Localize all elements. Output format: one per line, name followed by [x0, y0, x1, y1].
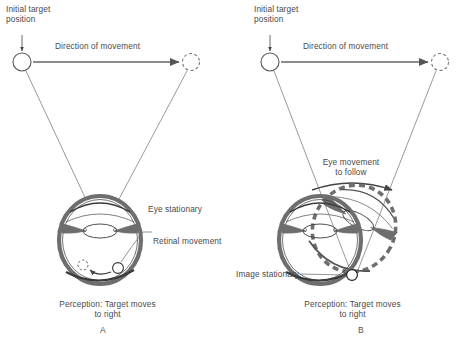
eye-inner-wall-a	[63, 200, 138, 281]
panel-letter-b: B	[358, 325, 364, 335]
ciliary-body-left-b	[280, 223, 306, 233]
panel-a-graphics	[13, 35, 200, 284]
image-stationary-label-b: Image stationary	[228, 269, 299, 279]
initial-target-circle-b	[261, 53, 279, 71]
perception-label-b: Perception: Target moves to right	[285, 299, 420, 319]
retinal-movement-label-a: Retinal movement	[153, 236, 221, 246]
final-target-circle-a	[183, 54, 200, 71]
figure-container: Initial target position Direction of mov…	[0, 0, 462, 345]
retinal-image-solid-a	[113, 263, 124, 274]
initial-target-circle-a	[13, 53, 31, 71]
retinal-image-stationary-b	[347, 270, 358, 281]
ciliary-body-right-b	[334, 223, 360, 233]
eye-state-label-a: Eye stationary	[148, 204, 202, 214]
lens-b	[303, 224, 337, 238]
perception-label-a: Perception: Target moves to right	[40, 299, 175, 319]
eye-state-label-b: Eye movement to follow	[305, 157, 397, 177]
initial-target-label-b: Initial target position	[254, 4, 298, 24]
direction-label-b: Direction of movement	[303, 41, 388, 51]
image-stationary-leader-b	[300, 274, 346, 275]
final-target-circle-b	[432, 54, 449, 71]
direction-label-a: Direction of movement	[55, 41, 140, 51]
initial-target-label-a: Initial target position	[6, 4, 50, 24]
panel-letter-a: A	[100, 325, 106, 335]
anterior-chamber-b	[286, 214, 354, 222]
